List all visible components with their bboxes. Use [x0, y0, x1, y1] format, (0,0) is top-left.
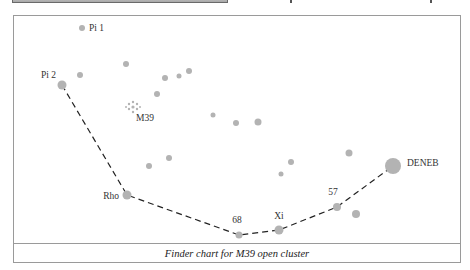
star-hop-path [62, 85, 393, 235]
m39-cluster: M39 [125, 101, 154, 123]
star-dot [346, 150, 353, 157]
cluster-label: M39 [136, 113, 154, 123]
named-star-dot [79, 25, 85, 31]
star-dot [162, 75, 168, 81]
cluster-star-dot [139, 106, 141, 108]
dashed-path-line [62, 85, 393, 235]
star-dot [77, 72, 83, 78]
cluster-star-dot [125, 106, 127, 108]
star-dot [288, 159, 294, 165]
named-star-dot [123, 191, 132, 200]
star-label: Pi 1 [89, 23, 104, 33]
named-star-dot [385, 158, 401, 174]
cluster-star-dot [128, 103, 130, 105]
named-stars: Pi 1Pi 2Rho68Xi57DENEB [41, 23, 439, 239]
star-dot [279, 172, 284, 177]
star-label: Xi [274, 211, 284, 221]
named-star-dot [275, 226, 284, 235]
star-dot [211, 113, 216, 118]
cluster-star-dot [136, 108, 138, 110]
star-dot [233, 120, 239, 126]
cluster-star-dot [136, 103, 138, 105]
star-dot [146, 163, 152, 169]
star-label: 68 [232, 215, 242, 225]
star-chart: M39 Pi 1Pi 2Rho68Xi57DENEB [0, 0, 470, 270]
star-dot [352, 210, 360, 218]
star-label: Pi 2 [41, 70, 56, 80]
star-dot [177, 74, 182, 79]
star-dot [166, 155, 172, 161]
named-star-dot [58, 81, 67, 90]
star-dot [123, 61, 129, 67]
cluster-star-dot [128, 108, 130, 110]
star-dot [154, 91, 160, 97]
star-dot [255, 119, 262, 126]
cluster-star-dot [131, 105, 134, 108]
named-star-dot [333, 203, 341, 211]
cluster-star-dot [132, 111, 134, 113]
star-label: 57 [328, 187, 338, 197]
named-star-dot [236, 232, 243, 239]
star-label: DENEB [407, 158, 439, 168]
cluster-star-dot [132, 101, 134, 103]
star-dot [186, 68, 192, 74]
background-stars [77, 61, 360, 218]
star-label: Rho [103, 191, 119, 201]
